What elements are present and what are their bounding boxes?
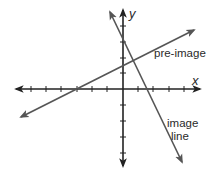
- coordinate-plane-diagram: y x pre-image image line: [0, 0, 209, 181]
- x-axis-label: x: [191, 73, 199, 88]
- image-line-label-line1: image: [167, 117, 198, 129]
- pre-image-line: [21, 30, 194, 117]
- y-axis-label: y: [128, 6, 137, 21]
- image-line-label-line2: line: [171, 130, 189, 142]
- pre-image-label: pre-image: [154, 47, 206, 59]
